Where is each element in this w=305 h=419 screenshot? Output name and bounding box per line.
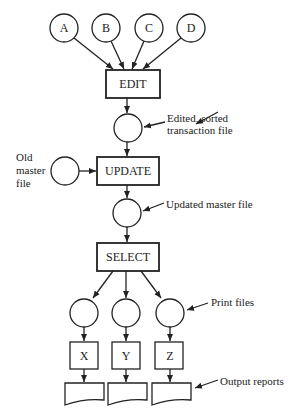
print-file-y-circle — [112, 299, 140, 327]
sorted-annotation-line1: Edited, sorted — [167, 112, 229, 124]
old-master-line1: Old — [16, 151, 33, 163]
old-master-line2: master — [16, 164, 46, 176]
print-file-z-circle — [156, 299, 184, 327]
edit-label: EDIT — [119, 77, 147, 91]
output-z-label: Z — [166, 349, 173, 363]
sorted-annotation-line2: transaction file — [167, 124, 233, 136]
print-file-x-circle — [70, 299, 98, 327]
old-master-line3: file — [16, 177, 31, 189]
select-label: SELECT — [106, 250, 151, 264]
report-y-doc — [108, 383, 147, 405]
output-y-label: Y — [122, 349, 131, 363]
file-b-label: B — [102, 21, 110, 35]
updated-master-circle — [113, 199, 141, 227]
update-label: UPDATE — [105, 164, 151, 178]
report-z-doc — [152, 383, 191, 405]
transaction-file-circle — [114, 114, 142, 142]
output-x-label: X — [80, 349, 89, 363]
updated-master-annotation: Updated master file — [166, 198, 253, 210]
flow-diagram: A B C D EDIT UPDATE SELECT X Y Z Edited,… — [0, 0, 305, 419]
report-x-doc — [65, 383, 104, 405]
old-master-circle — [51, 157, 79, 185]
output-reports-annotation: Output reports — [220, 375, 284, 387]
print-files-annotation: Print files — [211, 296, 254, 308]
file-d-label: D — [187, 21, 196, 35]
file-a-label: A — [60, 21, 69, 35]
file-c-label: C — [145, 21, 153, 35]
